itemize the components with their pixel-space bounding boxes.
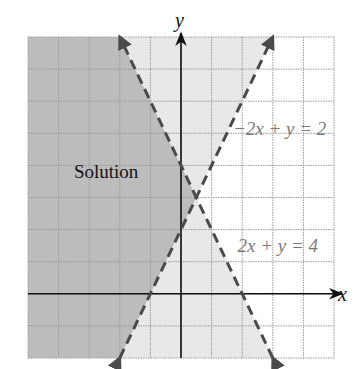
x-axis-label: x xyxy=(337,283,347,305)
y-axis-label: y xyxy=(173,9,184,32)
line-label-neg2x-plus-y-eq-2: −2x + y = 2 xyxy=(233,118,327,139)
solution-label: Solution xyxy=(74,161,139,182)
inequality-graph: x y Solution −2x + y = 2 2x + y = 4 xyxy=(0,0,364,369)
line-label-2x-plus-y-eq-4: 2x + y = 4 xyxy=(238,235,319,256)
